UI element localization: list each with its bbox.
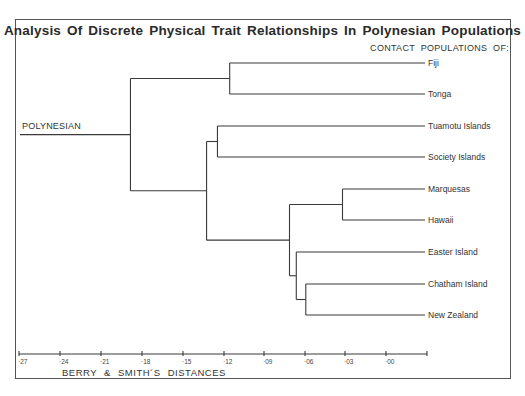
dendrogram: FijiTongaTuamotu IslandsSociety IslandsM… <box>0 0 525 396</box>
leaf-label: Chatham Island <box>428 279 488 289</box>
leaf-label: Tuamotu Islands <box>428 121 491 131</box>
x-tick-label: ·06 <box>304 358 314 365</box>
leaf-label: Easter Island <box>428 247 478 257</box>
x-axis <box>19 351 427 356</box>
x-tick-label: ·21 <box>100 358 110 365</box>
x-tick-label: ·03 <box>344 358 354 365</box>
leaf-label: New Zealand <box>428 310 478 320</box>
dendrogram-branches <box>20 63 425 315</box>
leaf-label: Fiji <box>428 58 439 68</box>
leaf-labels: FijiTongaTuamotu IslandsSociety IslandsM… <box>428 58 491 320</box>
leaf-label: Society Islands <box>428 152 485 162</box>
leaf-label: Tonga <box>428 89 451 99</box>
leaf-label: Hawaii <box>428 215 454 225</box>
x-tick-label: ·00 <box>385 358 395 365</box>
x-tick-label: ·18 <box>141 358 151 365</box>
x-tick-label: ·12 <box>223 358 233 365</box>
leaf-label: Marquesas <box>428 184 470 194</box>
x-tick-label: ·15 <box>182 358 192 365</box>
x-tick-label: ·24 <box>59 358 69 365</box>
x-tick-label: ·09 <box>263 358 273 365</box>
x-axis-tick-labels: ·27·24·21·18·15·12·09·06·03·00 <box>18 358 395 365</box>
x-tick-label: ·27 <box>18 358 28 365</box>
